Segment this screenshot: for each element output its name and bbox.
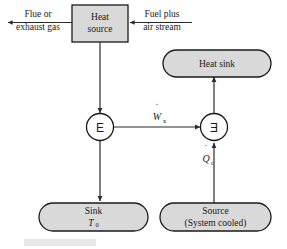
heat-source-label-line1: Heat: [91, 12, 109, 22]
flue-gas-label-line2: exhaust gas: [16, 22, 60, 32]
node-heat-source: Heat source: [72, 5, 128, 42]
heat-sink-label: Heat sink: [199, 59, 235, 69]
work-flow-subscript: x: [163, 117, 167, 124]
sink-temperature-subscript: 0: [96, 221, 99, 228]
node-source: Source (System cooled): [160, 203, 271, 231]
node-heat-sink: Heat sink: [163, 50, 271, 77]
work-flow-symbol: W: [153, 111, 163, 122]
node-energy-junction: E: [87, 114, 114, 141]
source-label-line2: (System cooled): [184, 218, 246, 229]
node-sink: Sink T 0: [39, 203, 148, 231]
heat-cold-flow-subscript: c: [211, 159, 214, 166]
fuel-air-label-line1: Fuel plus: [144, 9, 179, 19]
energy-junction-glyph: E: [96, 121, 104, 135]
exergy-flow-diagram: Heat source Heat sink Sink T 0 Source (S…: [0, 0, 287, 249]
node-exergy-junction: E: [201, 114, 228, 141]
flue-gas-stream-label: Flue or exhaust gas: [16, 9, 60, 32]
heat-source-label-line2: source: [88, 24, 113, 34]
caption-placeholder-bar: [24, 239, 96, 246]
work-flow-label: ˙ W x: [153, 102, 167, 124]
heat-cold-flow-label: ˙ Q c: [202, 143, 214, 166]
source-label-line1: Source: [202, 206, 228, 216]
exergy-junction-glyph: E: [210, 121, 218, 135]
diagram-canvas: Heat source Heat sink Sink T 0 Source (S…: [0, 0, 287, 249]
fuel-air-label-line2: air stream: [143, 22, 181, 32]
sink-temperature-symbol: T: [88, 218, 94, 228]
flue-gas-label-line1: Flue or: [24, 9, 52, 19]
sink-label-line1: Sink: [85, 206, 103, 216]
fuel-air-stream-label: Fuel plus air stream: [143, 9, 181, 32]
heat-cold-flow-symbol: Q: [202, 153, 210, 164]
